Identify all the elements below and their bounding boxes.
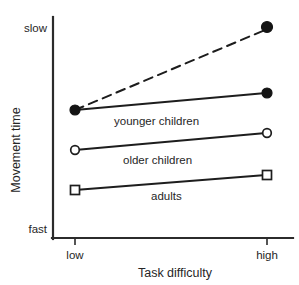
series-line-younger-dashed <box>75 30 265 110</box>
y-axis-title: Movement time <box>9 107 23 192</box>
chart-figure: slow fast low high Movement time Task di… <box>0 0 299 285</box>
data-point-younger-low <box>70 105 80 115</box>
series-label-adults: adults <box>151 190 182 202</box>
x-tick-label-high: high <box>256 249 278 261</box>
data-point-older-low <box>71 146 80 155</box>
y-tick-label-slow: slow <box>24 22 48 34</box>
data-point-younger-high <box>262 88 272 98</box>
series-label-older-children: older children <box>123 154 192 166</box>
x-tick-label-low: low <box>66 249 84 261</box>
x-axis-title: Task difficulty <box>138 266 213 280</box>
series-line-adults <box>75 175 266 190</box>
data-point-adults-high <box>263 171 272 180</box>
data-point-adults-low <box>71 186 80 195</box>
series-label-younger-children: younger children <box>114 115 199 127</box>
data-point-younger-dashed-high <box>262 22 273 33</box>
line-chart-svg: slow fast low high Movement time Task di… <box>0 0 299 285</box>
y-tick-label-fast: fast <box>28 223 47 235</box>
series-line-younger-children <box>75 93 266 110</box>
series-line-older-children <box>75 133 266 150</box>
data-point-older-high <box>263 129 272 138</box>
